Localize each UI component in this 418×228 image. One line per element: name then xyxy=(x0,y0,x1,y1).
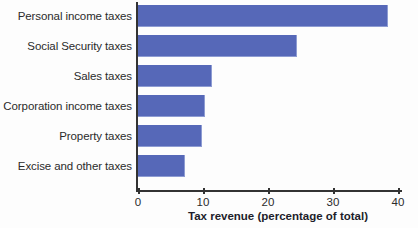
plot-area xyxy=(138,0,418,190)
bar-chart: Personal income taxes Social Security ta… xyxy=(0,0,418,228)
x-axis-title: Tax revenue (percentage of total) xyxy=(138,210,418,222)
bar xyxy=(138,95,205,117)
category-label: Corporation income taxes xyxy=(0,100,132,112)
category-axis-labels: Personal income taxes Social Security ta… xyxy=(0,0,132,190)
x-axis-tick-label: 0 xyxy=(135,196,141,208)
x-axis-tick xyxy=(268,188,270,194)
bar xyxy=(138,35,297,57)
x-axis-tick xyxy=(138,188,140,194)
bar xyxy=(138,155,185,177)
category-label: Social Security taxes xyxy=(0,40,132,52)
bar xyxy=(138,125,202,147)
x-axis-tick-label: 20 xyxy=(262,196,275,208)
category-label: Personal income taxes xyxy=(0,10,132,22)
category-label: Sales taxes xyxy=(0,70,132,82)
y-axis-line xyxy=(136,2,138,191)
x-axis-tick xyxy=(203,188,205,194)
x-axis-tick xyxy=(333,188,335,194)
x-axis-tick-label: 30 xyxy=(327,196,340,208)
category-label: Property taxes xyxy=(0,130,132,142)
category-label: Excise and other taxes xyxy=(0,160,132,172)
x-axis-tick xyxy=(398,188,400,194)
bar xyxy=(138,65,212,87)
bar xyxy=(138,5,388,27)
x-axis-tick-label: 40 xyxy=(392,196,405,208)
x-axis-tick-label: 10 xyxy=(197,196,210,208)
